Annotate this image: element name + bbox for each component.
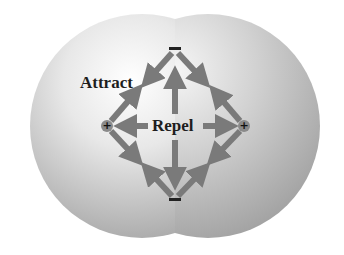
repel-label: Repel [152, 117, 194, 134]
right-positive-charge: + [238, 120, 250, 132]
diagram-canvas: Attract Repel + + [0, 0, 344, 255]
attract-label: Attract [80, 74, 133, 91]
left-positive-charge: + [101, 120, 113, 132]
plus-sign: + [102, 119, 111, 132]
top-negative-charge [168, 46, 182, 52]
plus-sign: + [239, 119, 248, 132]
minus-sign [169, 198, 181, 201]
bottom-negative-charge [168, 197, 182, 203]
minus-sign [169, 47, 181, 50]
